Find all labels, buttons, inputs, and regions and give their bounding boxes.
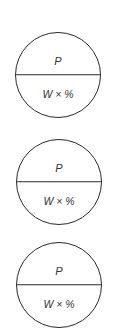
divider-line [17,284,101,285]
whole-times-percent-label: W × % [17,195,101,207]
part-label: P [17,162,101,174]
whole-times-percent-label: W × % [17,298,101,310]
percent-circle-1: P W × % [15,32,101,118]
percent-circle-2: P W × % [16,139,102,225]
whole-times-percent-label: W × % [16,88,100,100]
part-label: P [17,265,101,277]
divider-line [16,74,100,75]
divider-line [17,181,101,182]
part-label: P [16,55,100,67]
percent-circle-3: P W × % [16,242,102,328]
